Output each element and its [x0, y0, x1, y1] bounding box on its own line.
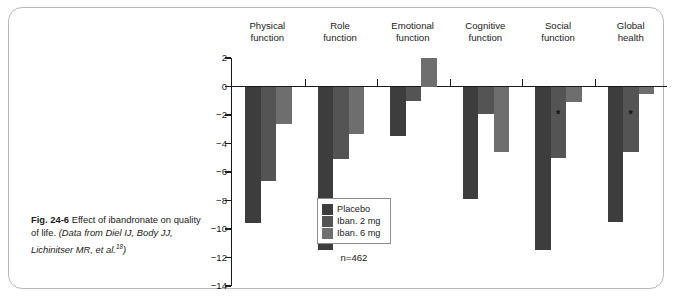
category-header-cognitive-function: Cognitive function [449, 20, 522, 54]
category-header-emotional-function: Emotional function [376, 20, 449, 54]
legend-label-iban-2mg: Iban. 2 mg [337, 216, 380, 227]
bar [333, 87, 349, 160]
figure-caption: Fig. 24-6 Effect of ibandronate on quali… [31, 213, 201, 256]
y-axis-tick-label: 0 [197, 81, 227, 92]
bar [390, 87, 406, 137]
category-header-global-health: Global health [594, 20, 667, 54]
bar [551, 87, 567, 158]
legend-swatch-placebo [322, 204, 333, 215]
bars-layer: ** [232, 58, 667, 286]
bar [463, 87, 479, 200]
y-axis-tick-label: −14 [197, 280, 227, 291]
figure-number: Fig. 24-6 [31, 214, 69, 225]
significance-asterisk: * [551, 109, 567, 120]
legend-item-iban-6mg: Iban. 6 mg [322, 227, 385, 239]
bar [608, 87, 624, 222]
bar [478, 87, 494, 114]
y-axis-tick-label: 2 [197, 52, 227, 63]
bar [276, 87, 292, 124]
legend-label-placebo: Placebo [337, 204, 370, 215]
y-axis-tick-label: −10 [197, 223, 227, 234]
category-header-physical-function: Physical function [231, 20, 304, 54]
bar [421, 58, 437, 87]
bar [494, 87, 510, 153]
bar-chart: Physical function Role function Emotiona… [205, 20, 667, 296]
y-axis-tick-label: −6 [197, 166, 227, 177]
bar [261, 87, 277, 181]
category-headers: Physical function Role function Emotiona… [231, 20, 667, 54]
y-axis-tick-label: −8 [197, 195, 227, 206]
significance-asterisk: * [623, 109, 639, 120]
legend-item-placebo: Placebo [322, 203, 385, 215]
y-axis-tick-label: −12 [197, 252, 227, 263]
chart-legend: Placebo Iban. 2 mg Iban. 6 mg [317, 198, 391, 244]
axis-area: 20−2−4−6−8−10−12−14 ** [205, 58, 667, 286]
bar [566, 87, 582, 103]
legend-label-iban-6mg: Iban. 6 mg [337, 228, 380, 239]
figure-source-close: ) [123, 244, 126, 255]
bar [245, 87, 261, 224]
y-axis-tick-label: −4 [197, 138, 227, 149]
bar [639, 87, 655, 94]
legend-swatch-iban-6mg [322, 228, 333, 239]
category-header-social-function: Social function [522, 20, 595, 54]
bar [535, 87, 551, 251]
sample-size-label: n=462 [317, 252, 391, 263]
legend-swatch-iban-2mg [322, 216, 333, 227]
bar [349, 87, 365, 134]
figure-frame: Fig. 24-6 Effect of ibandronate on quali… [8, 7, 664, 289]
figure-source-reference: 18 [116, 242, 123, 249]
category-header-role-function: Role function [304, 20, 377, 54]
y-axis-tick-label: −2 [197, 109, 227, 120]
bar [406, 87, 422, 101]
legend-item-iban-2mg: Iban. 2 mg [322, 215, 385, 227]
